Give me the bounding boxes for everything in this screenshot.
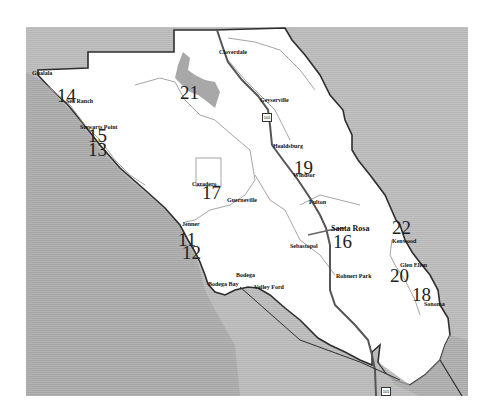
town-jenner: Jenner [182,221,200,227]
highway-101-shield-icon: 101 [262,113,272,122]
region-number-13: 13 [88,140,107,159]
sonoma-county-map: Gualala Sea Ranch Stewarts Point Cloverd… [0,0,494,420]
town-gualala: Gualala [32,70,52,76]
town-kenwood: Kenwood [392,238,416,244]
map-graphic [0,0,494,420]
town-fulton: Fulton [309,199,326,205]
town-bodega-bay: Bodega Bay [208,281,239,287]
region-number-20: 20 [390,266,409,285]
highway-101-shield-icon: 101 [381,387,391,396]
town-sebastopol: Sebastopol [290,243,318,249]
town-healdsburg: Healdsburg [273,143,303,149]
region-number-16: 16 [333,232,352,251]
town-valley-ford: Valley Ford [254,284,284,290]
town-geyserville: Geyserville [260,97,289,103]
town-bodega: Bodega [236,272,255,278]
region-number-22: 22 [392,218,411,237]
region-number-19: 19 [294,158,313,177]
town-cloverdale: Cloverdale [219,49,247,55]
town-guerneville: Guerneville [227,197,257,203]
region-number-18: 18 [412,285,431,304]
region-number-14: 14 [57,86,76,105]
region-number-21: 21 [180,83,199,102]
town-rohnert-park: Rohnert Park [336,273,372,279]
region-number-17: 17 [202,183,221,202]
region-number-12: 12 [182,243,201,262]
